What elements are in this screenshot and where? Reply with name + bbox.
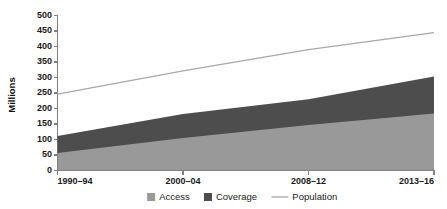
area-chart: Millions 050100150200250300350400450500 … xyxy=(0,0,447,209)
y-axis-tick-label: 150 xyxy=(37,118,52,128)
x-axis-tick-label: 2013–16 xyxy=(399,176,434,186)
y-axis-tick-label: 300 xyxy=(37,72,52,82)
x-axis-tick-label: 2000–04 xyxy=(165,176,200,186)
y-axis-tick-label: 0 xyxy=(47,165,52,175)
y-axis-tick-label: 350 xyxy=(37,56,52,66)
legend-label: Access xyxy=(159,191,190,202)
y-axis-tick-label: 400 xyxy=(37,41,52,51)
y-axis-title: Millions xyxy=(6,77,17,112)
legend-swatch-icon xyxy=(204,193,212,201)
chart-legend: AccessCoveragePopulation xyxy=(147,191,337,202)
x-axis-tick-label: 1990–94 xyxy=(58,176,93,186)
y-axis-tick-label: 250 xyxy=(37,87,52,97)
y-axis-tick-label: 450 xyxy=(37,25,52,35)
chart-canvas: Millions 050100150200250300350400450500 … xyxy=(0,0,447,209)
y-axis-tick-label: 200 xyxy=(37,103,52,113)
y-axis-tick-label: 50 xyxy=(42,149,52,159)
y-axis-tick-label: 500 xyxy=(37,10,52,20)
y-axis-tick-label: 100 xyxy=(37,134,52,144)
legend-label: Population xyxy=(292,191,337,202)
legend-swatch-icon xyxy=(147,193,155,201)
legend-label: Coverage xyxy=(216,191,257,202)
x-axis-tick-label: 2008–12 xyxy=(291,176,326,186)
